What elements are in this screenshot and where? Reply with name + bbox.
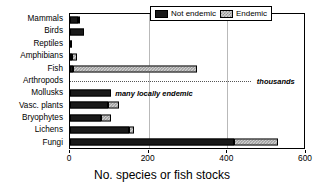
bar-segment-not-endemic	[70, 114, 101, 121]
category-label-vasc-plants: Vasc. plants	[0, 100, 66, 112]
bar-segment-not-endemic	[70, 102, 108, 109]
bar-row-amphibians	[70, 51, 304, 63]
bar-segment-not-endemic	[70, 138, 234, 145]
stacked-bar	[70, 41, 72, 48]
category-label-birds: Birds	[0, 25, 66, 37]
bar-segment-not-endemic	[70, 17, 78, 24]
x-tick-label-0: 0	[67, 153, 72, 163]
x-axis-ticks: 0200400600	[69, 150, 305, 162]
x-axis-title: No. species or fish stocks	[0, 168, 324, 182]
stacked-bar	[70, 138, 278, 145]
bar-rows: thousandsmany locally endemic	[70, 14, 304, 148]
stacked-bar	[70, 29, 84, 36]
bar-segment-not-endemic	[70, 90, 111, 97]
bar-segment-endemic	[234, 138, 277, 145]
bar-segment-endemic	[101, 114, 112, 121]
thousands-dotted-line	[70, 81, 251, 82]
category-label-bryophytes: Bryophytes	[0, 112, 66, 124]
chart-legend: Not endemic Endemic	[150, 6, 272, 21]
x-tick-label-200: 200	[141, 153, 155, 163]
category-label-mammals: Mammals	[0, 13, 66, 25]
category-label-reptiles: Reptiles	[0, 38, 66, 50]
legend-label-endemic: Endemic	[236, 9, 267, 18]
legend-label-not-endemic: Not endemic	[171, 9, 216, 18]
category-label-fish: Fish	[0, 62, 66, 74]
category-label-arthropods: Arthropods	[0, 75, 66, 87]
bar-row-lichens	[70, 124, 304, 136]
stacked-bar	[70, 65, 197, 72]
category-label-lichens: Lichens	[0, 124, 66, 136]
stacked-bar	[70, 114, 111, 121]
x-tick-label-600: 600	[298, 153, 312, 163]
bar-row-fungi	[70, 136, 304, 148]
bar-segment-not-endemic	[70, 29, 84, 36]
bar-row-reptiles	[70, 38, 304, 50]
plot-area: thousandsmany locally endemic	[69, 13, 305, 149]
bar-row-mollusks: many locally endemic	[70, 87, 304, 99]
legend-item-endemic: Endemic	[220, 9, 267, 18]
legend-item-not-endemic: Not endemic	[155, 9, 216, 18]
x-tick-label-400: 400	[219, 153, 233, 163]
dark-solid-swatch-icon	[155, 10, 168, 18]
bar-row-vasc-plants	[70, 99, 304, 111]
bar-segment-endemic	[72, 53, 77, 60]
bar-segment-not-endemic	[70, 126, 129, 133]
bar-segment-endemic	[129, 126, 134, 133]
stacked-bar	[70, 17, 80, 24]
light-hatched-swatch-icon	[220, 10, 233, 18]
category-label-amphibians: Amphibians	[0, 50, 66, 62]
stacked-bar	[70, 53, 77, 60]
bar-row-arthropods: thousands	[70, 75, 304, 87]
bar-segment-endemic	[108, 102, 119, 109]
y-axis-category-labels: Mammals Birds Reptiles Amphibians Fish A…	[0, 13, 66, 149]
bar-row-fish	[70, 63, 304, 75]
bar-row-birds	[70, 26, 304, 38]
stacked-bar	[70, 126, 134, 133]
bar-chart: Mammals Birds Reptiles Amphibians Fish A…	[0, 0, 324, 192]
annotation-many-locally-endemic: many locally endemic	[115, 89, 193, 98]
bar-segment-not-endemic	[70, 41, 72, 48]
annotation-thousands: thousands	[257, 77, 295, 86]
category-label-fungi: Fungi	[0, 137, 66, 149]
category-label-mollusks: Mollusks	[0, 87, 66, 99]
bar-segment-endemic	[73, 65, 197, 72]
bar-segment-endemic	[78, 17, 80, 24]
bar-row-bryophytes	[70, 112, 304, 124]
stacked-bar	[70, 102, 119, 109]
stacked-bar	[70, 90, 111, 97]
